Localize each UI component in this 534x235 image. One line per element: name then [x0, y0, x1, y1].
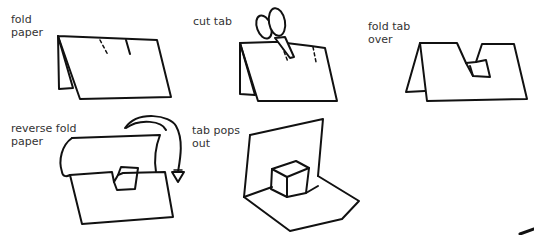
cut-tab-illustration [240, 7, 337, 101]
diagram-canvas [0, 0, 534, 235]
edge-mark [520, 229, 534, 234]
reverse-fold-illustration [60, 116, 184, 224]
folded-paper-illustration [58, 36, 171, 99]
scissors-icon [253, 7, 294, 58]
pop-out-illustration [244, 119, 359, 231]
fold-tab-illustration [406, 43, 527, 101]
